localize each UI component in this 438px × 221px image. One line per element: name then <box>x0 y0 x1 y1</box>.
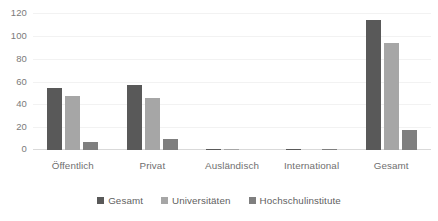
bar-slot <box>206 13 221 150</box>
bar-gesamt[interactable] <box>366 20 381 150</box>
bar-group-gesamt <box>351 13 431 150</box>
bar-hochschulinstitute[interactable] <box>402 130 417 150</box>
legend-item-hochschulinstitute[interactable]: Hochschulinstitute <box>249 195 341 206</box>
y-tick-label: 80 <box>1 54 27 64</box>
bar-chart: 120 100 80 60 40 20 0 <box>0 0 438 221</box>
x-label-international: International <box>272 160 352 171</box>
x-label-auslaendisch: Ausländisch <box>192 160 272 171</box>
y-tick-label: 20 <box>1 122 27 132</box>
bar-slot <box>384 13 399 150</box>
y-tick-label: 40 <box>1 99 27 109</box>
legend-item-universitaeten[interactable]: Universitäten <box>161 195 230 206</box>
bar-universitaeten[interactable] <box>145 98 160 150</box>
x-label-privat: Privat <box>113 160 193 171</box>
bar-slot <box>322 13 337 150</box>
bar-group-auslaendisch <box>192 13 272 150</box>
bar-slot <box>242 13 257 150</box>
bar-slot <box>83 13 98 150</box>
bar-hochschulinstitute[interactable] <box>322 149 337 150</box>
bar-slot <box>286 13 301 150</box>
legend-swatch-icon <box>161 197 168 204</box>
bar-slot <box>47 13 62 150</box>
bar-slot <box>402 13 417 150</box>
legend-item-gesamt[interactable]: Gesamt <box>97 195 143 206</box>
bar-slot <box>163 13 178 150</box>
bar-hochschulinstitute[interactable] <box>163 139 178 150</box>
bar-group-oeffentlich <box>33 13 113 150</box>
x-axis-labels: Öffentlich Privat Ausländisch Internatio… <box>33 160 431 171</box>
bar-gesamt[interactable] <box>127 85 142 150</box>
bar-group-international <box>272 13 352 150</box>
y-tick-label: 120 <box>1 8 27 18</box>
x-label-oeffentlich: Öffentlich <box>33 160 113 171</box>
legend-label: Gesamt <box>108 195 143 206</box>
bar-hochschulinstitute[interactable] <box>83 142 98 150</box>
legend-swatch-icon <box>97 197 104 204</box>
bar-universitaeten[interactable] <box>224 149 239 150</box>
bar-slot <box>145 13 160 150</box>
chart-legend: Gesamt Universitäten Hochschulinstitute <box>0 195 438 206</box>
bar-groups <box>33 13 431 150</box>
legend-label: Hochschulinstitute <box>260 195 341 206</box>
bar-slot <box>127 13 142 150</box>
bar-slot <box>224 13 239 150</box>
legend-label: Universitäten <box>172 195 230 206</box>
y-tick-label: 100 <box>1 31 27 41</box>
bar-universitaeten[interactable] <box>384 43 399 150</box>
bar-gesamt[interactable] <box>206 149 221 150</box>
bar-gesamt[interactable] <box>47 88 62 150</box>
bar-slot <box>304 13 319 150</box>
y-tick-label: 60 <box>1 77 27 87</box>
bar-gesamt[interactable] <box>286 149 301 150</box>
bar-slot <box>65 13 80 150</box>
x-label-gesamt: Gesamt <box>351 160 431 171</box>
legend-swatch-icon <box>249 197 256 204</box>
bar-group-privat <box>113 13 193 150</box>
bar-universitaeten[interactable] <box>65 96 80 150</box>
bar-slot <box>366 13 381 150</box>
y-tick-label: 0 <box>1 144 27 154</box>
